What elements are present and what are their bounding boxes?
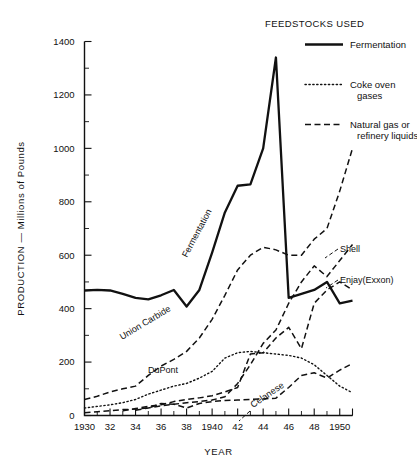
production-line-chart: 0200400600800100012001400193032343638194…	[0, 0, 417, 466]
legend-item-natural-gas-or[interactable]: Natural gas orrefinery liquids	[305, 119, 417, 141]
series-line-shell	[136, 245, 353, 411]
legend-label-line2: gases	[357, 90, 383, 101]
y-tick-label: 0	[69, 410, 74, 421]
series-label-enjay-exxon: Enjay(Exxon)	[340, 275, 394, 285]
legend-label: Fermentation	[350, 39, 406, 50]
x-tick-label: 34	[130, 421, 141, 432]
series-label-union-carbide: Union Carbide	[118, 304, 172, 342]
series-label-dupont: DuPont	[148, 365, 179, 375]
shell-leader-line	[325, 249, 338, 258]
x-tick-label: 44	[258, 421, 269, 432]
series-line-dupont	[85, 351, 353, 408]
series-annotations: FermentationUnion CarbideDuPontCelaneseS…	[118, 207, 394, 421]
x-tick-label: 1930	[74, 421, 95, 432]
legend-label-line1: Natural gas or	[350, 119, 410, 130]
axis-lines	[85, 42, 353, 416]
y-tick-label: 1200	[53, 89, 74, 100]
chart-legend: FEEDSTOCKS USEDFermentationCoke ovengase…	[265, 18, 417, 141]
x-tick-label: 48	[309, 421, 320, 432]
x-axis-ticks: 1930323436381940424446481950	[74, 409, 353, 432]
y-axis-title: PRODUCTION — Millions of Pounds	[15, 141, 26, 315]
y-tick-label: 1000	[53, 143, 74, 154]
x-tick-label: 32	[105, 421, 116, 432]
x-tick-label: 46	[283, 421, 294, 432]
chart-root: 0200400600800100012001400193032343638194…	[0, 0, 417, 466]
y-tick-label: 400	[59, 303, 75, 314]
x-tick-label: 36	[156, 421, 167, 432]
x-tick-label: 1950	[329, 421, 350, 432]
chart-series	[85, 58, 353, 413]
legend-label-line2: refinery liquids	[357, 130, 417, 141]
series-label-shell: Shell	[340, 244, 360, 254]
y-tick-label: 600	[59, 250, 75, 261]
series-line-fermentation	[85, 58, 353, 307]
x-tick-label: 42	[232, 421, 243, 432]
series-label-celanese: Celanese	[249, 380, 286, 410]
y-tick-label: 200	[59, 356, 75, 367]
chart-axes	[85, 42, 353, 416]
x-tick-label: 1940	[202, 421, 223, 432]
legend-item-fermentation[interactable]: Fermentation	[305, 39, 406, 50]
x-tick-label: 38	[181, 421, 192, 432]
series-label-fermentation: Fermentation	[180, 207, 214, 259]
y-tick-label: 1400	[53, 36, 74, 47]
y-tick-label: 800	[59, 196, 75, 207]
legend-item-coke-oven[interactable]: Coke ovengases	[305, 79, 395, 101]
x-axis-title: YEAR	[204, 446, 232, 457]
legend-title: FEEDSTOCKS USED	[265, 18, 364, 29]
series-line-union-carbide	[85, 148, 353, 399]
legend-label-line1: Coke oven	[350, 79, 395, 90]
y-axis-ticks: 0200400600800100012001400	[53, 36, 91, 421]
